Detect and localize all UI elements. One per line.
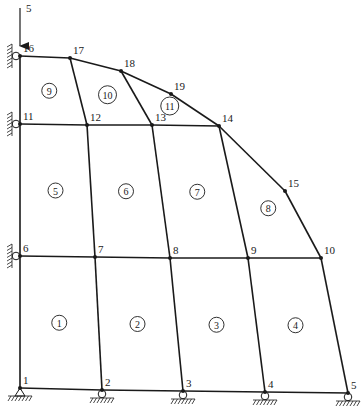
mesh-edge	[248, 258, 265, 392]
node-label: 15	[288, 177, 300, 189]
node-label: 18	[124, 57, 136, 69]
mesh-edge	[95, 257, 102, 390]
node-label: 7	[98, 243, 104, 255]
node-label: 8	[173, 244, 179, 256]
mesh-edge	[87, 125, 95, 257]
element-6: 6	[119, 184, 134, 199]
roller-support-icon	[7, 44, 20, 68]
element-7: 7	[190, 184, 205, 199]
node-label: 5	[351, 379, 357, 391]
node-dot	[217, 124, 221, 128]
node-label: 19	[174, 80, 186, 92]
node-label: 6	[23, 242, 29, 254]
element-label: 7	[195, 187, 200, 198]
roller-support-icon	[7, 112, 20, 136]
node-label: 10	[324, 244, 336, 256]
element-9: 9	[42, 83, 57, 98]
mesh-edges	[20, 56, 348, 393]
mesh-edge	[121, 71, 152, 125]
node-label: 11	[23, 110, 34, 122]
element-label: 11	[165, 101, 175, 112]
mesh-edge	[70, 58, 121, 71]
node-label: 1	[23, 374, 29, 386]
mesh-edge	[95, 257, 170, 258]
roller-support-icon	[171, 391, 195, 404]
mesh-edge	[70, 58, 87, 125]
mesh-edge	[20, 56, 70, 58]
node-dot	[346, 391, 350, 395]
node-dot	[246, 256, 250, 260]
mesh-edge	[170, 258, 183, 391]
element-1: 1	[52, 315, 67, 330]
element-3: 3	[209, 317, 224, 332]
element-2: 2	[130, 317, 145, 332]
node-dot	[18, 386, 22, 390]
node-label: 9	[251, 244, 257, 256]
mesh-edge	[183, 391, 265, 392]
element-label: 2	[135, 319, 140, 330]
node-dot	[150, 123, 154, 127]
node-dot	[263, 390, 267, 394]
roller-support-icon	[90, 390, 114, 403]
mesh-edge	[152, 125, 170, 258]
supports	[7, 44, 360, 406]
element-8: 8	[261, 201, 276, 216]
node-dot	[119, 69, 123, 73]
element-label: 3	[214, 320, 219, 331]
mesh-edge	[20, 124, 87, 125]
element-label: 4	[293, 320, 298, 331]
roller-support-icon	[253, 392, 277, 405]
node-label: 2	[105, 376, 111, 388]
element-10: 10	[99, 86, 117, 104]
element-4: 4	[288, 318, 303, 333]
element-label: 9	[47, 86, 52, 97]
roller-support-icon	[336, 393, 360, 406]
mesh-edge	[102, 390, 183, 391]
mesh-edge	[20, 388, 102, 390]
node-dot	[168, 256, 172, 260]
node-18: 18	[119, 57, 136, 73]
node-dot	[18, 254, 22, 258]
node-dot	[93, 255, 97, 259]
roller-support-icon	[7, 244, 20, 268]
node-dot	[85, 123, 89, 127]
node-15: 15	[283, 177, 300, 193]
element-label: 6	[124, 186, 129, 197]
element-labels: 1234567891011	[42, 83, 303, 333]
node-dot	[68, 56, 72, 60]
mesh-edge	[285, 191, 321, 258]
node-label: 4	[268, 378, 274, 390]
mesh-edge	[152, 125, 219, 126]
node-dot	[283, 189, 287, 193]
node-dot	[100, 388, 104, 392]
load-arrow: 5	[20, 2, 32, 46]
node-dot	[181, 389, 185, 393]
node-dot	[319, 256, 323, 260]
node-label: 14	[222, 112, 234, 124]
node-14: 14	[217, 112, 234, 128]
element-5: 5	[48, 183, 63, 198]
node-19: 19	[169, 80, 186, 96]
mesh-edge	[20, 256, 95, 257]
mesh-edge	[219, 126, 285, 191]
mesh-edge	[219, 126, 248, 258]
element-label: 1	[57, 318, 62, 329]
element-label: 5	[53, 186, 58, 197]
node-dot	[169, 92, 173, 96]
node-17: 17	[68, 44, 85, 60]
node-dot	[18, 54, 22, 58]
node-5: 5	[346, 379, 357, 395]
node-dot	[18, 122, 22, 126]
node-label: 13	[155, 111, 167, 123]
mesh-edge	[265, 392, 348, 393]
element-label: 8	[266, 203, 271, 214]
node-label: 12	[90, 111, 101, 123]
node-label: 17	[73, 44, 85, 56]
fem-mesh-diagram: 5 1234567891011 123456789101112131415161…	[0, 0, 362, 412]
mesh-edge	[321, 258, 348, 393]
node-label: 3	[186, 377, 192, 389]
load-label: 5	[26, 2, 32, 14]
node-10: 10	[319, 244, 336, 260]
nodes: 12345678910111213141516171819	[18, 42, 357, 395]
element-label: 10	[103, 90, 113, 101]
